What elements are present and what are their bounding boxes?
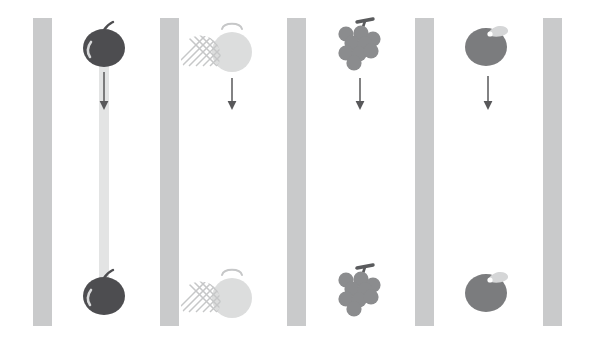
vertical-bar-2: [160, 18, 179, 326]
vertical-bar-1: [33, 18, 52, 326]
vertical-bar-4: [415, 18, 434, 326]
vertical-bar-3: [287, 18, 306, 326]
down-arrow-grapes: [353, 78, 367, 110]
grapes-icon-bottom[interactable]: [335, 263, 385, 319]
grapes-icon-top[interactable]: [335, 17, 385, 73]
apple-icon-bottom[interactable]: [78, 268, 130, 318]
vertical-bar-5: [543, 18, 562, 326]
down-arrow-apple: [97, 72, 111, 110]
apple-icon-top[interactable]: [78, 20, 130, 70]
down-arrow-peach: [481, 76, 495, 110]
melon-icon-top[interactable]: [206, 20, 258, 74]
peach-icon-bottom[interactable]: [462, 267, 514, 315]
scene-canvas: [0, 0, 592, 344]
down-arrow-melon: [225, 78, 239, 110]
peach-icon-top[interactable]: [462, 21, 514, 69]
melon-icon-bottom[interactable]: [206, 266, 258, 320]
